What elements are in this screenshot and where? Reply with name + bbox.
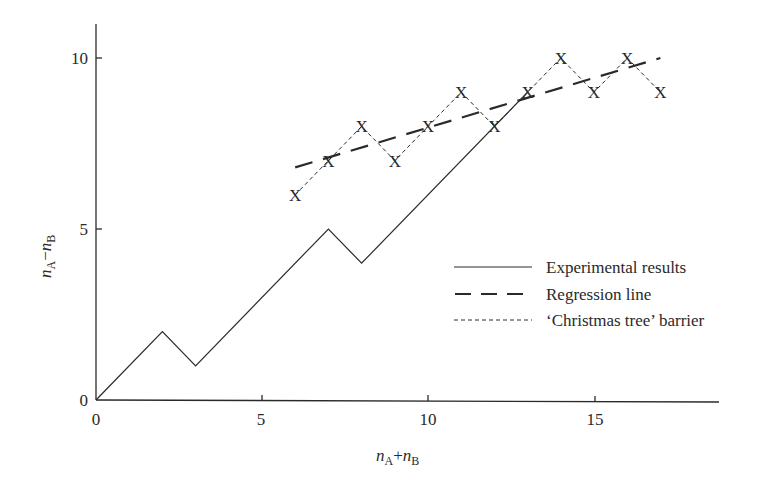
legend-label: Regression line (546, 285, 651, 304)
legend-label: Experimental results (546, 258, 686, 277)
y-tick-label: 5 (80, 220, 89, 239)
series-line (295, 58, 660, 167)
x-tick-label: 15 (587, 410, 604, 429)
legend: Experimental results Regression line ‘Ch… (454, 258, 705, 330)
chart-canvas: 0 5 10 0 5 10 15 nA+nB nA−nB XXXXXXXXXXX… (0, 0, 778, 483)
y-axis-title: nA−nB (36, 235, 58, 278)
x-marker-icon: X (355, 117, 367, 136)
x-tick-labels: 0 5 10 15 (92, 410, 604, 429)
series-regression-line (295, 58, 660, 167)
legend-item-experimental: Experimental results (454, 258, 686, 277)
series-line (295, 58, 660, 195)
x-marker-icon: X (322, 152, 334, 171)
x-marker-icon: X (588, 83, 600, 102)
x-tick-label: 5 (257, 410, 266, 429)
y-tick-label: 0 (80, 391, 89, 410)
legend-label: ‘Christmas tree’ barrier (546, 311, 705, 330)
legend-item-regression: Regression line (455, 285, 651, 304)
y-axis-title-op: − (36, 251, 55, 261)
series-christmas-tree-barrier (295, 58, 660, 195)
x-marker-icon: X (555, 49, 567, 68)
x-marker-icon: X (521, 83, 533, 102)
legend-item-barrier: ‘Christmas tree’ barrier (454, 311, 705, 330)
y-axis-title-sub1: A (44, 261, 58, 270)
y-axis-title-n1: n (36, 270, 55, 279)
x-marker-icon: X (422, 117, 434, 136)
x-axis-title-sub1: A (385, 454, 394, 468)
x-axis-title-sub2: B (411, 454, 419, 468)
x-marker-icon: X (289, 186, 301, 205)
x-axis-title: nA+nB (376, 446, 419, 468)
x-tick-label: 0 (92, 410, 101, 429)
axes (96, 24, 719, 402)
y-axis-title-sub2: B (44, 235, 58, 243)
x-axis-title-n2: n (403, 446, 412, 465)
y-axis-title-n2: n (36, 243, 55, 252)
y-tick-label: 10 (71, 49, 88, 68)
x-marker-icon: X (389, 152, 401, 171)
x-tick-label: 10 (420, 410, 437, 429)
x-axis-title-op: + (393, 446, 403, 465)
series-experimental-results (96, 92, 528, 400)
x-marker-icon: X (654, 83, 666, 102)
x-axis-title-n1: n (376, 446, 385, 465)
series-line (96, 92, 528, 400)
x-marker-icon: X (621, 49, 633, 68)
x-marker-icon: X (488, 117, 500, 136)
x-marker-icon: X (455, 83, 467, 102)
x-axis-line (96, 400, 719, 402)
y-tick-labels: 0 5 10 (71, 49, 88, 410)
